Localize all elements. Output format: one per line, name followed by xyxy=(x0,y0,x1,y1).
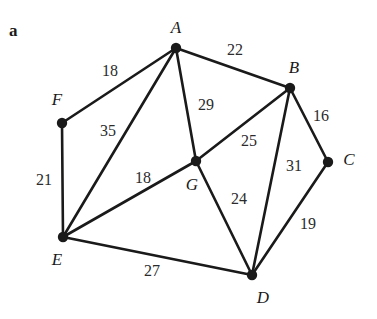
edge-weight-f-a: 18 xyxy=(102,63,118,79)
graph-node-e xyxy=(58,232,68,242)
graph-node-f xyxy=(57,118,67,128)
node-label-d: D xyxy=(257,289,269,306)
node-label-g: G xyxy=(186,176,198,193)
graph-edge-e-f xyxy=(62,123,63,237)
edge-weight-g-e: 18 xyxy=(135,170,151,186)
graph-edge-b-c xyxy=(290,88,328,162)
edge-weight-b-d: 31 xyxy=(286,158,302,174)
graph-figure: a 182229351625311924182127 ABCDEFG xyxy=(0,0,377,319)
edge-weight-e-f: 21 xyxy=(36,172,52,188)
graph-edge-g-d xyxy=(196,161,252,275)
node-label-f: F xyxy=(52,91,62,108)
edge-weight-a-e: 35 xyxy=(100,123,116,139)
node-label-a: A xyxy=(171,19,181,36)
graph-node-c xyxy=(323,157,333,167)
graph-node-g xyxy=(191,156,201,166)
graph-edge-f-a xyxy=(62,48,176,123)
graph-edge-g-e xyxy=(63,161,196,237)
graph-edge-a-g xyxy=(176,48,196,161)
edge-weight-a-g: 29 xyxy=(198,97,214,113)
edge-weight-g-d: 24 xyxy=(231,191,247,207)
graph-node-b xyxy=(285,83,295,93)
graph-canvas xyxy=(0,0,377,319)
edge-weight-a-b: 22 xyxy=(227,42,243,58)
graph-edge-a-e xyxy=(63,48,176,237)
part-label: a xyxy=(9,22,18,39)
edge-weight-c-d: 19 xyxy=(300,216,316,232)
node-label-b: B xyxy=(289,59,299,76)
edge-weight-b-g: 25 xyxy=(241,133,257,149)
node-label-c: C xyxy=(343,151,354,168)
edge-weight-e-d: 27 xyxy=(144,263,160,279)
edge-weight-b-c: 16 xyxy=(313,108,329,124)
graph-node-a xyxy=(171,43,181,53)
node-label-e: E xyxy=(52,251,62,268)
graph-node-d xyxy=(247,270,257,280)
